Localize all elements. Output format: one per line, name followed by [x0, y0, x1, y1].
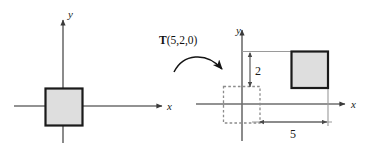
horizontal-dimension: 5 — [260, 122, 327, 141]
right-y-axis-label: y — [235, 24, 241, 36]
original-square — [46, 89, 83, 126]
vertical-dimension-label: 2 — [255, 64, 261, 78]
translated-square-shape — [292, 52, 329, 89]
left-y-axis-label: y — [67, 8, 73, 20]
translated-square — [292, 52, 329, 89]
transform-arrow — [174, 57, 222, 72]
transform-arguments: (5,2,0) — [167, 34, 198, 47]
diagram-canvas: y x T(5,2,0) 2 — [0, 0, 370, 148]
vertical-dimension: 2 — [250, 53, 261, 87]
horizontal-dimension-label: 5 — [290, 127, 296, 141]
original-square-shape — [46, 89, 83, 126]
left-x-axis-label: x — [166, 100, 172, 112]
transform-arrow-path — [174, 57, 222, 72]
translation-diagram-svg: y x T(5,2,0) 2 — [0, 0, 370, 148]
right-x-axis-label: x — [350, 98, 356, 110]
transform-label: T(5,2,0) — [159, 34, 198, 47]
left-coordinate-system — [14, 20, 162, 143]
